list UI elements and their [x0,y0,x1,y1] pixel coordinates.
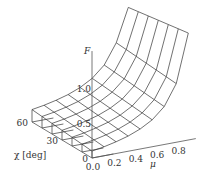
y-tick-label: 30 [47,136,59,146]
z-tick-label: 0.5 [77,119,92,129]
mesh-line-mu [32,7,128,109]
surface-plot: 0.00.20.40.60.8030600.51.0 F χ [deg] μ [0,0,203,179]
x-tick-label: 0.0 [86,162,101,172]
floor-hatch [72,142,93,146]
x-axis-label: μ [150,159,156,169]
y-tick-label: 0 [82,154,88,164]
x-tick-label: 0.4 [129,154,144,164]
floor-hatch [32,118,53,122]
z-axis-label: F [83,46,91,56]
y-tick-label: 60 [17,118,29,128]
x-tick-label: 0.8 [171,146,186,156]
mesh-line-chi [128,7,188,33]
y-axis-label: χ [deg] [14,150,46,160]
x-tick-label: 0.2 [107,158,121,168]
mesh-line-mu [92,33,188,151]
floor-hatch [42,124,63,128]
z-tick-label: 1.0 [77,84,92,94]
floor-hatch [82,148,103,152]
mesh-line-mu [82,29,178,144]
mesh-line-chi [68,95,128,137]
floor-hatch [62,136,83,140]
mesh-line-chi [32,110,92,152]
